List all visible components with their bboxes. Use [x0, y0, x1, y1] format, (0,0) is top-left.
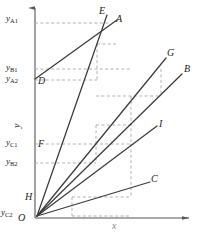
- x-axis-label: x: [112, 221, 116, 231]
- axes-group: [35, 8, 189, 218]
- axis-value-yB1: yB1: [6, 63, 18, 72]
- geometric-diagram: yA1 yB1 yA2 yC1 yB2 yC2 E A G B D I F C …: [0, 0, 199, 232]
- point-label-C: C: [151, 174, 158, 184]
- point-label-H: H: [25, 192, 32, 202]
- point-label-F: F: [38, 139, 44, 149]
- point-label-D: D: [38, 76, 45, 86]
- axis-value-yB2: yB2: [6, 157, 18, 166]
- dashed-construction-lines: [35, 23, 161, 216]
- axis-value-yA2: yA2: [6, 74, 18, 83]
- point-label-G: G: [167, 48, 174, 58]
- line-O-to-G: [37, 58, 166, 216]
- point-label-B: B: [184, 64, 190, 74]
- solid-lines-group: [35, 15, 182, 216]
- y-axis-label: y: [12, 124, 22, 128]
- point-label-I: I: [159, 119, 162, 129]
- origin-label: O: [18, 213, 25, 223]
- line-H-to-E: [37, 15, 107, 216]
- point-label-A: A: [116, 14, 122, 24]
- axis-value-yC2: yC2: [1, 208, 13, 217]
- axis-value-yC1: yC1: [6, 138, 18, 147]
- axis-value-yA1: yA1: [6, 14, 18, 23]
- line-D-to-A: [35, 20, 117, 79]
- line-O-to-I: [37, 126, 157, 216]
- point-label-E: E: [99, 6, 105, 16]
